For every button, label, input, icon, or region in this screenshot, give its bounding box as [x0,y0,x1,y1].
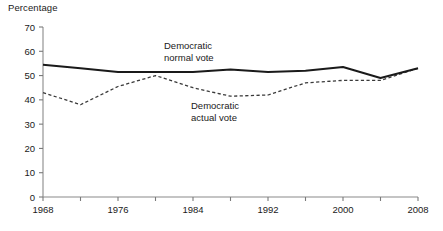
x-axis-tick-label: 2008 [407,204,428,215]
y-axis-tick-label: 60 [24,46,35,57]
y-axis-tick-label: 0 [30,192,35,203]
x-axis-ticks [43,197,418,201]
y-axis-tick-label: 70 [24,22,35,33]
x-axis-tick-labels: 196819761984199220002008 [32,204,428,215]
annotation-normal-vote: Democratic normal vote [164,40,214,63]
x-axis-tick-label: 2000 [332,204,353,215]
y-axis-ticks [39,27,43,197]
x-axis-tick-label: 1984 [182,204,203,215]
annotation-actual-vote-line1: Democratic [191,100,239,111]
y-axis-tick-label: 20 [24,143,35,154]
y-axis-tick-labels: 010203040506070 [24,22,35,203]
x-axis-tick-label: 1968 [32,204,53,215]
chart-plot: 010203040506070 196819761984199220002008… [0,0,443,231]
y-axis-tick-label: 50 [24,70,35,81]
y-axis-tick-label: 10 [24,167,35,178]
x-axis-tick-label: 1992 [257,204,278,215]
y-axis-tick-label: 30 [24,119,35,130]
chart-container: Percentage 010203040506070 1968197619841… [0,0,443,231]
annotation-actual-vote: Democratic actual vote [191,100,239,123]
annotation-actual-vote-line2: actual vote [191,112,237,123]
series-line-democratic-normal-vote [43,65,418,78]
annotation-normal-vote-line2: normal vote [164,52,214,63]
x-axis-tick-label: 1976 [107,204,128,215]
y-axis-tick-label: 40 [24,94,35,105]
annotation-normal-vote-line1: Democratic [164,40,212,51]
